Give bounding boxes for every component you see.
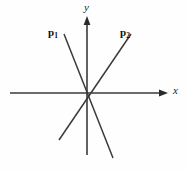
y-axis-label: y bbox=[84, 2, 89, 13]
x-axis-label: x bbox=[173, 85, 178, 96]
diagram-canvas bbox=[0, 0, 186, 170]
y-axis-arrowhead bbox=[84, 16, 91, 25]
vector-diagram: x y p1 p2 bbox=[0, 0, 186, 170]
vector-label-p1: p1 bbox=[48, 27, 58, 38]
vector-label-p1-subscript: 1 bbox=[54, 31, 58, 40]
vector-label-p2-subscript: 2 bbox=[126, 31, 130, 40]
x-axis-arrowhead bbox=[159, 90, 168, 97]
vector-label-p2: p2 bbox=[120, 27, 130, 38]
